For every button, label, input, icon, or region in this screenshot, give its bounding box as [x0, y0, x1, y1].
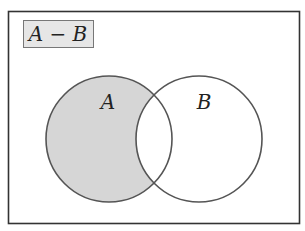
set-label-a: A: [99, 90, 115, 114]
title-label: A − B: [27, 22, 88, 46]
venn-diagram: A − B A B: [0, 0, 305, 231]
set-label-b: B: [196, 90, 212, 114]
